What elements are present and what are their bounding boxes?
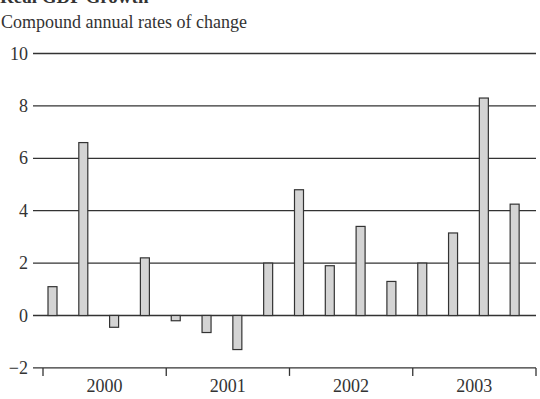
y-axis-labels: −20246810 — [9, 44, 28, 378]
y-tick-label: 0 — [19, 306, 28, 326]
bar — [264, 263, 273, 315]
x-tick-label: 2001 — [210, 376, 246, 396]
y-tick-label: 6 — [19, 148, 28, 168]
bar — [79, 143, 88, 316]
bar — [449, 233, 458, 316]
bar-chart: −20246810 2000200120022003 — [0, 0, 540, 399]
bar — [140, 258, 149, 316]
bar — [387, 281, 396, 315]
bar — [325, 266, 334, 316]
bar — [171, 316, 180, 321]
bar — [295, 190, 304, 316]
y-tick-label: 10 — [10, 44, 28, 64]
x-tick-label: 2002 — [333, 376, 369, 396]
y-tick-label: −2 — [9, 358, 28, 378]
x-tick-label: 2003 — [456, 376, 492, 396]
bar — [48, 287, 57, 316]
bar — [110, 316, 119, 328]
bar — [418, 263, 427, 315]
y-tick-label: 4 — [19, 201, 28, 221]
bar — [479, 98, 488, 315]
bar — [510, 204, 519, 315]
y-tick-label: 2 — [19, 253, 28, 273]
bar — [356, 226, 365, 315]
bar — [233, 316, 242, 350]
gridlines — [33, 54, 536, 368]
bars — [48, 98, 519, 350]
y-tick-label: 8 — [19, 96, 28, 116]
bar — [202, 316, 211, 333]
x-tick-label: 2000 — [87, 376, 123, 396]
x-axis: 2000200120022003 — [43, 368, 536, 396]
